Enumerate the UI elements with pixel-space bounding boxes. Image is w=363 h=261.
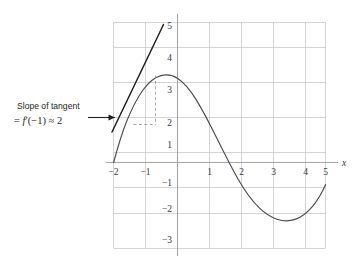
grid-lines (114, 22, 326, 249)
x-tick-label: 4 (303, 167, 308, 177)
right-arrow-icon (88, 114, 115, 120)
x-tick-labels: −2 −1 1 2 3 4 5 (108, 167, 328, 177)
annotation-line-1: Slope of tangent (17, 101, 80, 111)
x-tick-label: −1 (140, 167, 150, 177)
annotation-equals: = (14, 115, 23, 126)
x-tick-label: −2 (108, 167, 118, 177)
annotation-line-2: = f′(−1) ≈ 2 (14, 115, 62, 127)
y-tick-labels: 5 4 3 2 1 −1 −2 −3 (162, 21, 172, 245)
x-tick-label: 1 (207, 167, 212, 177)
y-tick-label: −1 (162, 178, 172, 188)
x-axis-label: x (341, 158, 347, 168)
y-tick-label: −3 (162, 235, 172, 245)
x-tick-label: 3 (271, 167, 276, 177)
x-tick-label: 2 (239, 167, 244, 177)
y-tick-label: 4 (167, 53, 172, 63)
tangent-slope-figure: −2 −1 1 2 3 4 5 5 4 3 2 1 −1 −2 −3 x Slo… (0, 0, 363, 261)
y-tick-label: 1 (167, 140, 172, 150)
axes (106, 14, 338, 256)
y-tick-label: 5 (167, 21, 172, 31)
y-tick-label: 3 (167, 85, 172, 95)
y-tick-label: 2 (167, 118, 172, 128)
x-tick-label: 5 (323, 167, 328, 177)
y-tick-label: −2 (162, 204, 172, 214)
annotation-arg: (−1) ≈ 2 (28, 115, 62, 127)
